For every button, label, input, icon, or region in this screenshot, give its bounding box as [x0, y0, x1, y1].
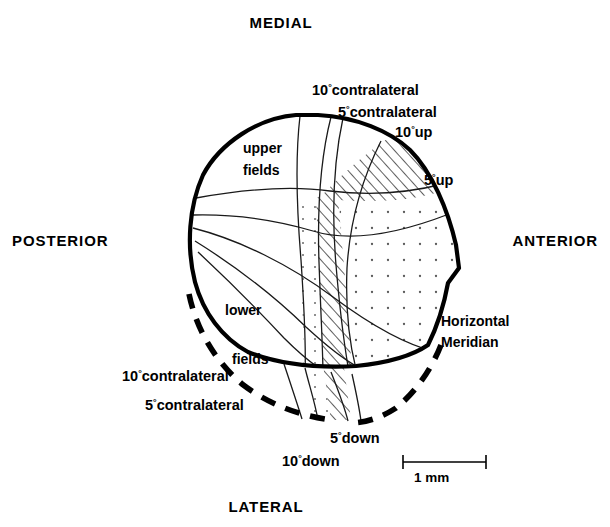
orientation-label-lateral: LATERAL — [228, 498, 303, 515]
label-10-up-text: up — [415, 124, 433, 140]
label-10-contralateral-top-value: 10 — [312, 82, 328, 98]
label-10-up-value: 10 — [395, 124, 411, 140]
label-5-contralateral-top-value: 5 — [338, 104, 346, 120]
label-5-up-text: up — [436, 172, 454, 188]
upper-fields-label-line2: fields — [243, 162, 280, 178]
label-5-up-value: 5 — [424, 172, 432, 188]
label-5-contralateral-bottom: 5°contralateral — [145, 397, 244, 413]
contour-azimuth-d-tail — [352, 374, 361, 421]
label-10-up: 10°up — [395, 124, 433, 140]
upper-fields-label-line1: upper — [243, 140, 282, 156]
label-10-down-text: down — [302, 453, 340, 469]
visual-field-diagram: 1 mm MEDIAL LATERAL POSTERIOR ANTERIOR u… — [0, 0, 610, 527]
label-10-contralateral-bottom-text: contralateral — [142, 368, 229, 384]
label-5-down-value: 5 — [330, 430, 338, 446]
label-5-up: 5°up — [424, 172, 454, 188]
orientation-label-posterior: POSTERIOR — [12, 232, 108, 249]
label-10-contralateral-bottom-value: 10 — [122, 368, 138, 384]
label-5-contralateral-bottom-text: contralateral — [157, 397, 244, 413]
lower-fields-label-line1: lower — [225, 302, 262, 318]
label-5-contralateral-top: 5°contralateral — [338, 104, 437, 120]
horizontal-meridian-label-line2: Meridian — [441, 334, 499, 350]
horizontal-meridian-label-line1: Horizontal — [441, 313, 509, 329]
scale-bar-label: 1 mm — [414, 470, 449, 485]
label-5-down: 5°down — [330, 430, 380, 446]
label-10-down-value: 10 — [282, 453, 298, 469]
orientation-label-anterior: ANTERIOR — [512, 232, 598, 249]
label-10-contralateral-top-text: contralateral — [332, 82, 419, 98]
label-5-down-text: down — [342, 430, 380, 446]
lower-fields-label-line2: fields — [232, 351, 269, 367]
orientation-label-medial: MEDIAL — [250, 14, 313, 31]
label-10-down: 10°down — [282, 453, 340, 469]
label-5-contralateral-bottom-value: 5 — [145, 397, 153, 413]
label-10-contralateral-bottom: 10°contralateral — [122, 368, 229, 384]
scale-bar: 1 mm — [403, 455, 486, 485]
label-5-contralateral-top-text: contralateral — [350, 104, 437, 120]
figure-container: 1 mm MEDIAL LATERAL POSTERIOR ANTERIOR u… — [0, 0, 610, 527]
label-10-contralateral-top: 10°contralateral — [312, 82, 419, 98]
